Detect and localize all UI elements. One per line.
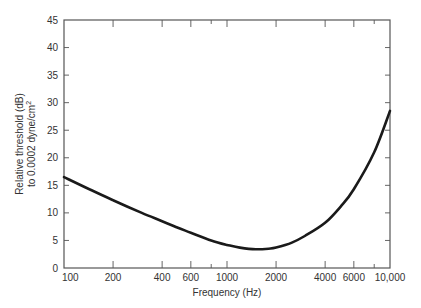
x-axis-ticks: 100200400600100020004000600010,000 [62,20,406,283]
x-tick-label: 100 [62,272,79,283]
y-tick-label: 40 [47,42,59,53]
x-tick-label: 4000 [314,272,337,283]
y-tick-label: 45 [47,15,59,26]
x-tick-label: 1000 [216,272,239,283]
y-tick-label: 35 [47,70,59,81]
y-axis-title-line1: Relative threshold (dB) [14,93,25,195]
threshold-chart: 051015202530354045 100200400600100020004… [0,0,421,308]
plot-frame [64,20,390,268]
y-axis-ticks: 051015202530354045 [47,15,390,274]
y-tick-label: 30 [47,97,59,108]
y-tick-label: 10 [47,207,59,218]
y-tick-label: 15 [47,180,59,191]
x-axis-title: Frequency (Hz) [193,287,262,298]
threshold-curve [64,111,390,249]
y-tick-label: 0 [52,263,58,274]
y-tick-label: 25 [47,125,59,136]
x-tick-label: 400 [154,272,171,283]
x-tick-label: 10,000 [375,272,406,283]
y-tick-label: 5 [52,235,58,246]
x-tick-label: 6000 [343,272,366,283]
x-tick-label: 200 [105,272,122,283]
x-tick-label: 600 [182,272,199,283]
x-tick-label: 2000 [265,272,288,283]
y-tick-label: 20 [47,152,59,163]
y-axis-title: Relative threshold (dB) to 0.0002 dyne/c… [14,93,37,195]
y-axis-title-line2: to 0.0002 dyne/cm2 [25,101,37,187]
